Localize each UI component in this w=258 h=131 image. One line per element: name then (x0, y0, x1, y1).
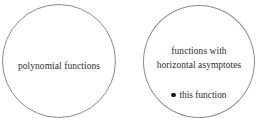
label-polynomial-functions: polynomial functions (2, 60, 116, 74)
label-horizontal-asymptote-functions: functions with horizontal asymptotes (143, 45, 255, 72)
filled-circle-bullet-icon (171, 93, 176, 98)
label-line-2: horizontal asymptotes (143, 59, 255, 73)
set-diagram: polynomial functions functions with hori… (0, 0, 258, 131)
label-line-1: functions with (171, 46, 226, 56)
set-member-this-function: this function (143, 89, 255, 101)
set-member-label: this function (179, 89, 226, 101)
